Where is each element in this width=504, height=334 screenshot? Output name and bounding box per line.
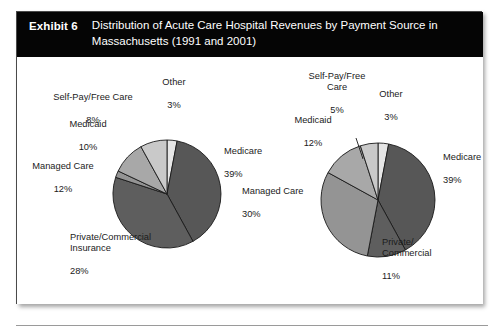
pie-1991-label-managed-care: Managed Care 12% [19,149,107,195]
pie-2001-label-other: Other 3% [368,77,414,123]
exhibit-number: Exhibit 6 [29,18,78,35]
pie-1991-label-private-commercial: Private/Commercial Insurance 28% [70,220,190,278]
page-separator-rule [16,325,488,326]
pie-2001-label-managed-care-text: Managed Care [242,186,304,196]
pie-2001-label-medicare-text: Medicare [443,152,481,162]
pie-1991-label-other-text: Other [162,77,185,87]
pie-2001-label-managed-care: Managed Care 30% [242,174,328,220]
pie-2001-label-medicaid-value: 12% [304,138,323,148]
pie-2001-label-other-text: Other [379,89,402,99]
pie-1991-label-medicare-value: 39% [224,169,243,179]
exhibit-figure: Exhibit 6 Distribution of Acute Care Hos… [0,0,504,334]
pie-chart-2001: Self-Pay/Free Care 5% Other 3% Medicaid … [250,57,483,304]
pie-chart-1991: Other 3% Self-Pay/Free Care 8% Medicaid … [17,57,250,304]
exhibit-title: Distribution of Acute Care Hospital Reve… [92,18,473,49]
pie-2001-label-medicaid: Medicaid 12% [277,103,349,149]
pie-2001-label-private-commercial: Private/ Commercial 11% [382,225,468,283]
pie-2001-label-managed-care-value: 30% [242,209,261,219]
pie-2001-label-private-commercial-text: Private/ Commercial [382,237,432,259]
pie-2001-label-medicaid-text: Medicaid [294,115,331,125]
pie-2001-label-self-pay-text: Self-Pay/Free Care [309,71,366,93]
pie-1991-label-other: Other 3% [151,65,197,111]
pie-1991-label-medicaid-text: Medicaid [69,119,106,129]
pie-1991-label-private-commercial-text: Private/Commercial Insurance [70,232,151,254]
pie-1991-label-managed-care-text: Managed Care [32,161,94,171]
pie-1991-label-other-value: 3% [167,100,180,110]
pie-2001-label-medicare-value: 39% [443,175,462,185]
pie-2001-label-medicare: Medicare 39% [443,140,503,186]
pie-2001-label-private-commercial-value: 11% [382,271,400,281]
exhibit-panel: Exhibit 6 Distribution of Acute Care Hos… [16,11,482,304]
pie-2001-label-other-value: 3% [384,112,397,122]
exhibit-title-bar: Exhibit 6 Distribution of Acute Care Hos… [17,12,483,57]
pie-1991-label-self-pay-text: Self-Pay/Free Care [53,92,133,102]
pie-1991-label-private-commercial-value: 28% [70,266,89,276]
pie-1991-label-medicaid: Medicaid 10% [51,107,125,153]
pie-1991-label-managed-care-value: 12% [54,184,73,194]
chart-area: Other 3% Self-Pay/Free Care 8% Medicaid … [17,57,483,304]
